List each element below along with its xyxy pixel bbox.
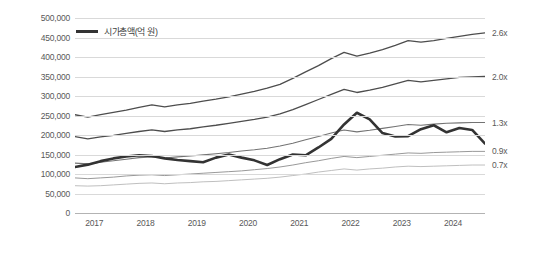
y-axis-tick-label: 200,000 (2, 130, 70, 140)
gridline (75, 174, 485, 175)
y-axis-tick-label: 300,000 (2, 91, 70, 101)
band-multiple-label: 2.0x (492, 72, 507, 82)
y-axis-tick-label: 0 (2, 208, 70, 218)
band-multiple-label: 2.6x (492, 28, 507, 38)
y-axis-tick-label: 100,000 (2, 169, 70, 179)
y-axis-tick-label: 350,000 (2, 72, 70, 82)
x-axis-tick-label: 2023 (393, 218, 411, 228)
legend-swatch-icon (76, 30, 98, 34)
band-multiple-label: 1.3x (492, 118, 507, 128)
axis-baseline (75, 213, 485, 214)
x-axis-tick-label: 2017 (85, 218, 103, 228)
band-multiple-label: 0.9x (492, 146, 507, 156)
x-axis-tick-label: 2024 (444, 218, 462, 228)
x-axis-tick-label: 2019 (188, 218, 206, 228)
y-axis-tick-label: 450,000 (2, 33, 70, 43)
x-axis-tick-label: 2021 (290, 218, 308, 228)
x-axis-tick-label: 2018 (136, 218, 154, 228)
gridline (75, 57, 485, 58)
gridline (75, 135, 485, 136)
gridline (75, 116, 485, 117)
y-axis-tick-label: 50,000 (2, 189, 70, 199)
gridline (75, 18, 485, 19)
x-axis-tick-label: 2020 (239, 218, 257, 228)
band-multiple-label: 0.7x (492, 160, 507, 170)
gridline (75, 194, 485, 195)
gridline (75, 77, 485, 78)
gridline (75, 155, 485, 156)
band-multiple-labels: 2.6x2.0x1.3x0.9x0.7x (492, 0, 539, 256)
y-axis: 500,000450,000400,000350,000300,000250,0… (0, 18, 70, 213)
series-line (75, 113, 485, 167)
gridline (75, 96, 485, 97)
x-axis-tick-label: 2022 (341, 218, 359, 228)
pbr-band-chart: 500,000450,000400,000350,000300,000250,0… (0, 0, 539, 256)
y-axis-tick-label: 250,000 (2, 111, 70, 121)
legend: 시가총액(억 원) (76, 25, 158, 38)
y-axis-tick-label: 500,000 (2, 13, 70, 23)
y-axis-tick-label: 400,000 (2, 52, 70, 62)
plot-area (75, 18, 485, 213)
series-line (75, 33, 485, 117)
x-axis: 20172018201920202021202220232024 (75, 216, 485, 236)
y-axis-tick-label: 150,000 (2, 150, 70, 160)
legend-label: 시가총액(억 원) (104, 25, 158, 38)
